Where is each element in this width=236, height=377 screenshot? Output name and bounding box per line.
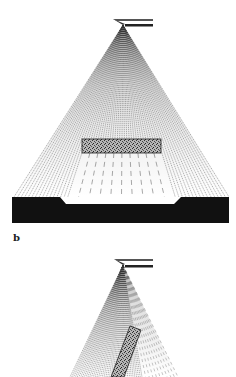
filter-block (82, 139, 161, 153)
source-bar-bottom (125, 24, 153, 27)
source-bar-bottom (125, 265, 153, 268)
object-slab (12, 197, 229, 223)
source-bar-top (113, 19, 153, 21)
panel-label-b: b (13, 233, 20, 243)
diagram-svg (0, 0, 236, 377)
figure-canvas: b (0, 0, 236, 377)
source-bar-top (114, 259, 153, 261)
